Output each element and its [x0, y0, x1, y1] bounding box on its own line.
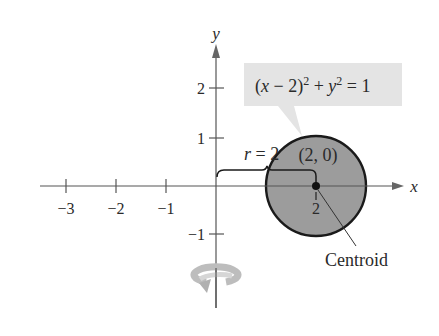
centroid-label: Centroid	[325, 250, 388, 270]
radius-label: r = 2	[244, 144, 279, 164]
y-tick-label: 1	[197, 130, 205, 147]
x-axis-arrow-icon	[392, 182, 404, 190]
centroid-point	[312, 182, 320, 190]
x-tick-label: −2	[107, 200, 124, 217]
rotation-arrow-icon	[194, 267, 238, 308]
center-point-label: (2, 0)	[299, 145, 338, 166]
x-tick-label: −1	[157, 200, 174, 217]
y-axis-label: y	[210, 24, 220, 43]
x-axis-label: x	[409, 177, 418, 196]
x-tick-label: −3	[57, 200, 74, 217]
y-tick-label: 2	[197, 80, 205, 97]
revolution-diagram: −3 −2 −1 2 2 1 −1 y x r = 2 (2, 0) Centr…	[0, 0, 439, 336]
callout-pointer	[278, 106, 302, 136]
y-tick-label: −1	[188, 226, 205, 243]
circle-equation: (x − 2)2 + y2 = 1	[255, 74, 370, 97]
x-tick-label: 2	[312, 200, 320, 217]
y-axis-arrow-icon	[212, 44, 220, 58]
